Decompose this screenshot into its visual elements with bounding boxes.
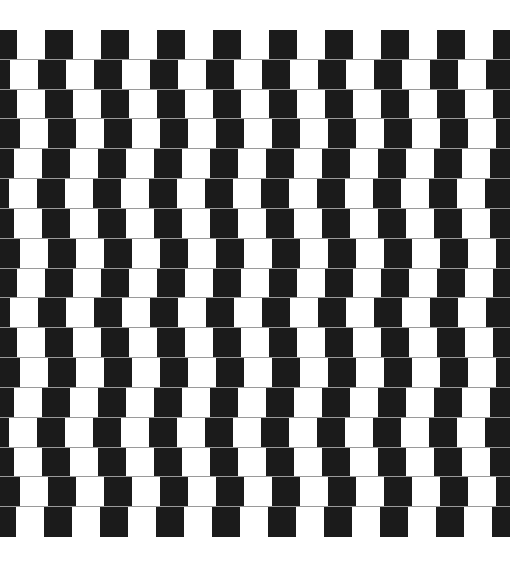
black-tile	[272, 358, 300, 387]
black-tile	[42, 149, 70, 178]
black-tile	[324, 507, 352, 537]
black-tile	[213, 269, 241, 297]
black-tile	[378, 448, 406, 476]
black-tile	[374, 60, 402, 89]
black-tile	[381, 90, 409, 118]
black-tile	[496, 119, 510, 148]
black-tile	[266, 448, 294, 476]
black-tile	[437, 269, 465, 297]
black-tile	[485, 418, 510, 447]
black-tile	[205, 179, 233, 208]
black-tile	[48, 119, 76, 148]
black-tile	[101, 90, 129, 118]
black-tile	[373, 179, 401, 208]
black-tile	[0, 477, 20, 506]
black-tile	[93, 418, 121, 447]
black-tile	[440, 358, 468, 387]
black-tile	[0, 30, 17, 59]
black-tile	[98, 209, 126, 238]
black-tile	[493, 90, 510, 118]
black-tile	[378, 149, 406, 178]
black-tile	[45, 90, 73, 118]
black-tile	[150, 60, 178, 89]
black-tile	[0, 507, 16, 537]
black-tile	[490, 209, 510, 238]
black-tile	[492, 507, 510, 537]
black-tile	[104, 358, 132, 387]
black-tile	[94, 298, 122, 327]
black-tile	[38, 60, 66, 89]
black-tile	[262, 298, 290, 327]
wall-row	[0, 209, 510, 239]
black-tile	[37, 179, 65, 208]
black-tile	[317, 179, 345, 208]
black-tile	[496, 239, 510, 268]
black-tile	[93, 179, 121, 208]
black-tile	[486, 60, 510, 89]
black-tile	[216, 477, 244, 506]
black-tile	[154, 388, 182, 417]
black-tile	[101, 30, 129, 59]
black-tile	[48, 477, 76, 506]
black-tile	[0, 388, 14, 417]
black-tile	[434, 149, 462, 178]
black-tile	[98, 448, 126, 476]
black-tile	[156, 507, 184, 537]
black-tile	[216, 119, 244, 148]
black-tile	[269, 328, 297, 357]
black-tile	[210, 149, 238, 178]
black-tile	[0, 298, 10, 327]
black-tile	[45, 30, 73, 59]
black-tile	[0, 149, 14, 178]
black-tile	[157, 90, 185, 118]
black-tile	[94, 60, 122, 89]
black-tile	[322, 209, 350, 238]
black-tile	[0, 209, 14, 238]
black-tile	[496, 358, 510, 387]
wall-row	[0, 507, 510, 537]
cafe-wall-pattern	[0, 30, 510, 537]
black-tile	[322, 448, 350, 476]
black-tile	[440, 239, 468, 268]
black-tile	[430, 60, 458, 89]
black-tile	[325, 30, 353, 59]
wall-row	[0, 477, 510, 507]
black-tile	[216, 358, 244, 387]
black-tile	[101, 328, 129, 357]
black-tile	[0, 358, 20, 387]
black-tile	[0, 179, 9, 208]
black-tile	[437, 30, 465, 59]
black-tile	[104, 239, 132, 268]
black-tile	[48, 239, 76, 268]
black-tile	[266, 209, 294, 238]
wall-row	[0, 328, 510, 358]
black-tile	[210, 388, 238, 417]
black-tile	[318, 298, 346, 327]
black-tile	[45, 328, 73, 357]
black-tile	[0, 418, 9, 447]
black-tile	[493, 30, 510, 59]
black-tile	[429, 418, 457, 447]
black-tile	[37, 418, 65, 447]
black-tile	[436, 507, 464, 537]
black-tile	[317, 418, 345, 447]
black-tile	[493, 328, 510, 357]
black-tile	[38, 298, 66, 327]
black-tile	[328, 239, 356, 268]
black-tile	[0, 239, 20, 268]
black-tile	[98, 149, 126, 178]
black-tile	[490, 388, 510, 417]
black-tile	[154, 448, 182, 476]
black-tile	[104, 119, 132, 148]
black-tile	[374, 298, 402, 327]
black-tile	[0, 60, 10, 89]
black-tile	[381, 328, 409, 357]
black-tile	[0, 90, 17, 118]
black-tile	[150, 298, 178, 327]
black-tile	[384, 239, 412, 268]
black-tile	[42, 388, 70, 417]
black-tile	[437, 328, 465, 357]
black-tile	[381, 269, 409, 297]
black-tile	[322, 388, 350, 417]
black-tile	[213, 90, 241, 118]
